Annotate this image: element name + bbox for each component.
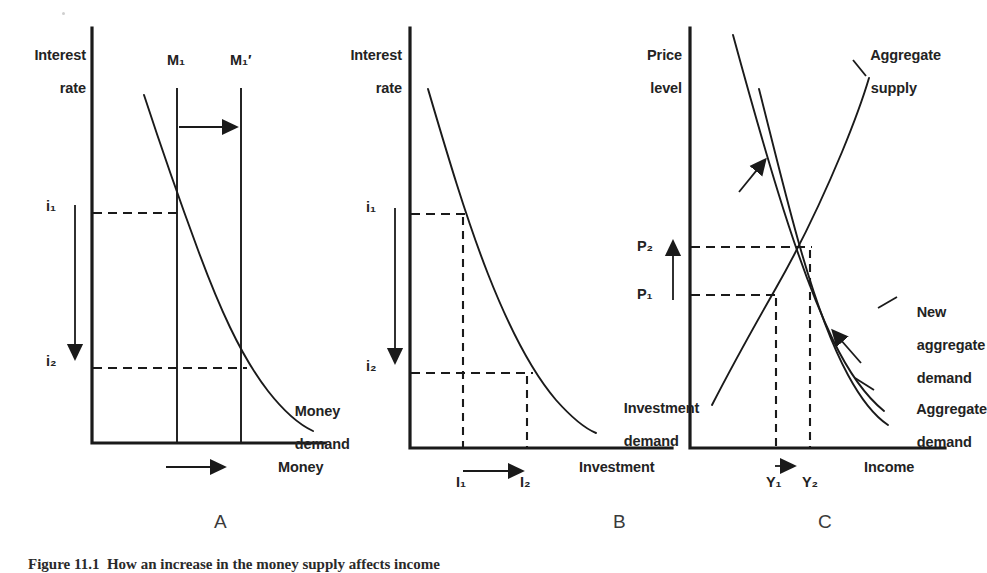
panel-b-i1-label: i₁ [366, 199, 376, 216]
panel-c-new-aggregate-demand-label-line1: New [917, 304, 947, 320]
panel-b-x-axis-title: Investment [579, 459, 655, 476]
panel-c-new-aggregate-demand-label-line2: aggregate [917, 337, 985, 353]
panel-c-aggregate-demand-label-line2: demand [917, 434, 972, 450]
figure-caption: Figure 11.1 How an increase in the money… [28, 556, 440, 573]
panel-a-money-demand-curve [144, 95, 313, 431]
panel-a-x-axis-title: Money [278, 459, 323, 476]
panel-b-investment-demand-label-line1: Investment [624, 400, 700, 416]
panel-c-y2-label: Y₂ [802, 474, 818, 491]
panel-c-y-axis-title: Price level [602, 30, 682, 113]
panel-b-i2-label: i₂ [366, 358, 376, 375]
panel-a-i2-label: i₂ [46, 353, 56, 370]
panel-c-aggregate-supply-label: Aggregate supply [855, 30, 941, 113]
panel-b-investment-demand-curve [428, 89, 596, 433]
panel-c-new-ad-leader-line [878, 297, 897, 308]
panel-c-y-axis-title-line1: Price [647, 47, 682, 63]
panel-a-m1-prime-label: M₁′ [230, 52, 251, 69]
panel-c-p2-label: P₂ [637, 238, 653, 255]
panel-c-p1-label: P₁ [637, 286, 652, 303]
panel-c-aggregate-supply-label-line1: Aggregate [870, 47, 941, 63]
panel-b-letter: B [613, 511, 626, 533]
panel-c-ad-shift-arrow-upper [739, 160, 765, 192]
panel-c-y-axis-title-line2: level [650, 80, 682, 96]
panel-b-y-axis-title-line1: Interest [350, 47, 402, 63]
panel-a-y-axis-title: Interest rate [0, 30, 86, 113]
panel-a-money-demand-label-line2: demand [295, 436, 350, 452]
panel-a-money-demand-label-line1: Money [295, 403, 340, 419]
panel-b-i1-investment-label: I₁ [456, 474, 466, 491]
panel-c-aggregate-demand-curve [759, 89, 888, 425]
panel-b-i2-investment-label: I₂ [520, 474, 530, 491]
panel-a-i1-label: i₁ [46, 198, 56, 215]
panel-a-y-axis-title-line2: rate [60, 80, 86, 96]
panel-a-money-demand-label: Money demand [279, 386, 350, 469]
panel-c-letter: C [818, 511, 832, 533]
panel-b-y-axis-title-line2: rate [376, 80, 402, 96]
panel-c-x-axis-title: Income [864, 459, 914, 476]
panel-a-letter: A [214, 511, 227, 533]
panel-a-y-axis-title-line1: Interest [34, 47, 86, 63]
panel-c-aggregate-demand-label-line1: Aggregate [916, 401, 987, 417]
panel-a-m1-label: M₁ [167, 52, 185, 69]
panel-b-investment-demand-label: Investment demand [608, 383, 699, 466]
panel-b-investment-demand-label-line2: demand [624, 433, 679, 449]
panel-c-aggregate-supply-curve [712, 78, 869, 405]
panel-c-aggregate-supply-label-line2: supply [871, 80, 917, 96]
panel-a-axes [92, 28, 325, 443]
panel-c-aggregate-demand-label: Aggregate demand [901, 384, 987, 467]
panel-b-y-axis-title: Interest rate [318, 30, 402, 113]
panel-c-y1-label: Y₁ [766, 474, 781, 491]
